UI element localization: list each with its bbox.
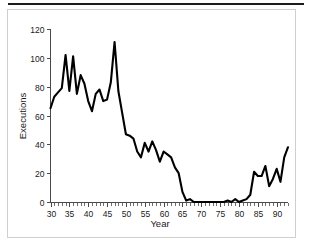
x-tick-label: 80 <box>235 209 245 219</box>
y-axis-group: 020406080100120 Executions <box>17 25 51 208</box>
y-tick-label: 80 <box>35 83 45 93</box>
x-axis-group: 30354045505560657075808590 Year <box>47 203 289 230</box>
x-tick-label: 45 <box>103 209 113 219</box>
x-tick-label: 65 <box>178 209 188 219</box>
figure-container: 020406080100120 Executions 3035404550556… <box>0 0 310 248</box>
executions-line-chart: 020406080100120 Executions 3035404550556… <box>0 0 310 248</box>
y-tick-label: 60 <box>35 112 45 122</box>
y-tick-label: 100 <box>30 54 44 64</box>
y-tick-label: 0 <box>40 198 45 208</box>
y-axis-title: Executions <box>17 93 28 140</box>
x-tick-label: 55 <box>141 209 151 219</box>
y-tick-label: 40 <box>35 140 45 150</box>
x-tick-label: 90 <box>273 209 283 219</box>
x-tick-label: 70 <box>197 209 207 219</box>
x-axis-title: Year <box>150 218 169 229</box>
x-tick-label: 35 <box>65 209 75 219</box>
x-tick-label: 85 <box>254 209 264 219</box>
x-tick-label: 50 <box>122 209 132 219</box>
y-axis-ticks <box>47 30 51 203</box>
x-tick-label: 75 <box>216 209 226 219</box>
y-tick-label: 20 <box>35 169 45 179</box>
executions-series-line <box>51 42 289 202</box>
y-tick-label: 120 <box>30 25 44 35</box>
y-axis-tick-labels: 020406080100120 <box>30 25 44 208</box>
x-tick-label: 40 <box>84 209 94 219</box>
x-tick-label: 30 <box>47 209 57 219</box>
